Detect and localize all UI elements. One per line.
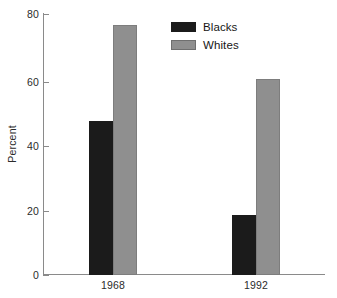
legend-item-whites: Whites <box>171 37 281 53</box>
legend-swatch-blacks-icon <box>171 22 196 32</box>
bar-1992-blacks <box>232 215 256 275</box>
y-tick-0 <box>43 275 49 276</box>
y-tick-label-0: 0 <box>3 270 39 280</box>
y-tick-label-60: 60 <box>3 77 39 87</box>
legend-item-blacks: Blacks <box>171 19 281 35</box>
y-tick-60 <box>43 82 49 83</box>
bar-1968-blacks <box>89 121 113 275</box>
legend-label-whites: Whites <box>203 39 239 51</box>
legend: Blacks Whites <box>171 19 281 55</box>
y-axis-title: Percent <box>6 114 18 174</box>
y-tick-40 <box>43 146 49 147</box>
bar-1968-whites <box>113 25 137 275</box>
x-tick-label-1968: 1968 <box>73 279 153 291</box>
y-tick-80 <box>43 14 49 15</box>
y-tick-label-20: 20 <box>3 206 39 216</box>
legend-label-blacks: Blacks <box>203 21 237 33</box>
y-tick-label-80: 80 <box>3 9 39 19</box>
legend-swatch-whites-icon <box>171 40 196 50</box>
x-axis-line <box>43 274 325 275</box>
y-axis-line <box>43 13 44 275</box>
x-tick-label-1992: 1992 <box>216 279 296 291</box>
bar-chart: 80 60 40 20 0 Percent 1968 1992 Blacks W… <box>0 0 337 298</box>
y-tick-20 <box>43 211 49 212</box>
bar-1992-whites <box>256 79 280 275</box>
